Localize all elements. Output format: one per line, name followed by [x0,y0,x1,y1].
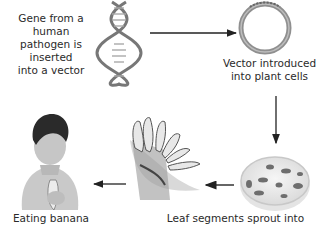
child-eating-banana-icon [22,114,79,210]
label-line: Gene from a human [0,12,102,38]
label-line: into a vector [0,64,102,77]
label-line: pathogen is inserted [0,38,102,64]
label-gene-insert: Gene from a human pathogen is inserted i… [0,12,102,77]
petri-dish-icon [240,157,310,211]
label-line: Vector introduced [218,57,321,70]
label-eating-banana: Eating banana [5,212,97,225]
label-leaf-segments: Leaf segments sprout into [150,212,321,225]
label-line: Eating banana [5,212,97,225]
dna-helix-icon [97,2,141,85]
label-vector-introduced: Vector introduced into plant cells [218,57,321,83]
label-line: into plant cells [218,70,321,83]
plasmid-ring-icon [241,3,289,53]
label-line: Leaf segments sprout into [150,212,321,225]
banana-plant-icon [130,118,200,200]
